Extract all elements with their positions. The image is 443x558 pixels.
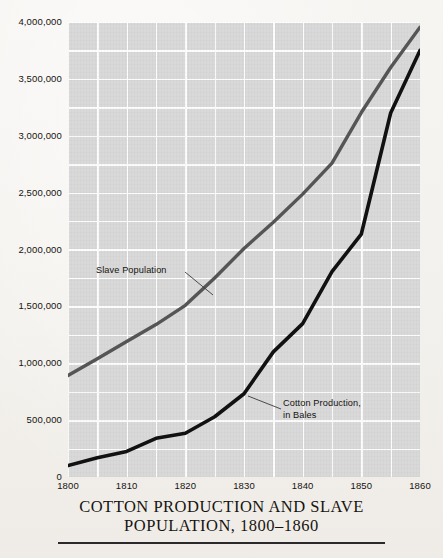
x-axis-tick-label: 1810	[116, 480, 138, 491]
x-axis-tick-label: 1800	[57, 480, 79, 491]
y-axis-tick-text: 500,000	[27, 414, 62, 425]
x-axis-tick-label: 1840	[292, 480, 314, 491]
y-axis-tick-text: 3,000,000	[18, 130, 62, 141]
chart-figure: 0500,0001,000,0001,500,0002,000,0002,500…	[0, 0, 443, 558]
chart-title: COTTON PRODUCTION AND SLAVE POPULATION, …	[0, 497, 443, 535]
y-axis-tick-text: 2,000,000	[18, 244, 62, 255]
y-axis-tick-text: 1,500,000	[18, 300, 62, 311]
bottom-rule	[58, 542, 385, 544]
chart-title-line-2: POPULATION, 1800–1860	[0, 516, 443, 535]
y-axis-tick-text: 2,500,000	[18, 187, 62, 198]
annotation-cotton-production: Cotton Production, in Bales	[283, 398, 361, 421]
y-axis-tick-text: 3,500,000	[18, 73, 62, 84]
x-axis-tick-label: 1850	[350, 480, 372, 491]
annotation-cotton-line-2: in Bales	[283, 410, 317, 420]
annotation-slave-population: Slave Population	[96, 265, 167, 277]
y-axis-labels: 0500,0001,000,0001,500,0002,000,0002,500…	[0, 0, 443, 558]
x-axis-tick-label: 1820	[174, 480, 196, 491]
annotation-slave-text: Slave Population	[96, 265, 167, 275]
x-axis-tick-label: 1860	[409, 480, 431, 491]
chart-title-line-1: COTTON PRODUCTION AND SLAVE	[0, 497, 443, 516]
annotation-cotton-line-1: Cotton Production,	[283, 398, 361, 408]
y-axis-tick-text: 4,000,000	[18, 16, 62, 27]
x-axis-tick-label: 1830	[233, 480, 255, 491]
y-axis-tick-text: 1,000,000	[18, 357, 62, 368]
